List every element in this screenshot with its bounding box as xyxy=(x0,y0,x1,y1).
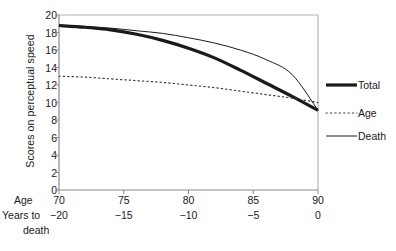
x-tick-label-ytd: −5 xyxy=(233,210,273,221)
legend-label-total: Total xyxy=(358,80,380,91)
chart-figure: Scores on perceptual speed 2018161412108… xyxy=(0,0,396,251)
x-axis-age-label: Age xyxy=(14,194,33,206)
legend-label-age: Age xyxy=(358,108,377,119)
x-tick-label-ytd: 0 xyxy=(298,210,338,221)
x-tick-label-ytd: −15 xyxy=(104,210,144,221)
x-axis-ytd-label-line1: Years to xyxy=(2,209,40,221)
legend-label-death: Death xyxy=(358,131,386,142)
x-tick-label-ytd: −10 xyxy=(169,210,209,221)
x-tick-label-ytd: −20 xyxy=(39,210,79,221)
x-axis-ytd-ticks: −20−15−10−50 xyxy=(0,0,396,251)
x-axis-ytd-label-line2: death xyxy=(23,224,49,236)
